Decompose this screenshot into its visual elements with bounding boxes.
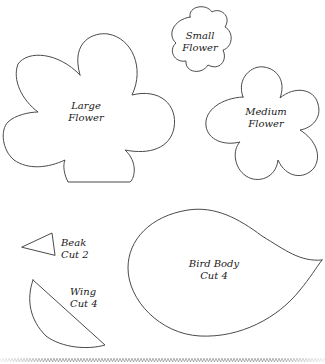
wing-label-line2: Cut 4 [70,298,98,310]
small-flower-label-line2: Flower [182,42,217,54]
beak-label: Beak Cut 2 [61,237,89,261]
large-flower-label-line1: Large [68,100,103,112]
beak-label-line2: Cut 2 [61,249,89,261]
bird-body-label: Bird Body Cut 4 [189,258,239,282]
small-flower-label: Small Flower [182,30,217,54]
small-flower-label-line1: Small [182,30,217,42]
beak-outline [22,233,55,255]
wing-label-line1: Wing [70,286,98,298]
bird-body-label-line2: Cut 4 [189,270,239,282]
large-flower-label-line2: Flower [68,112,103,124]
wing-label: Wing Cut 4 [70,286,98,310]
pattern-outlines [0,0,325,364]
beak-label-line1: Beak [61,237,89,249]
pattern-sheet: Small Flower Large Flower Medium Flower … [0,0,325,364]
medium-flower-label: Medium Flower [245,106,287,130]
pinked-edge-border [0,356,325,364]
medium-flower-label-line2: Flower [245,118,287,130]
medium-flower-label-line1: Medium [245,106,287,118]
bird-body-label-line1: Bird Body [189,258,239,270]
large-flower-label: Large Flower [68,100,103,124]
